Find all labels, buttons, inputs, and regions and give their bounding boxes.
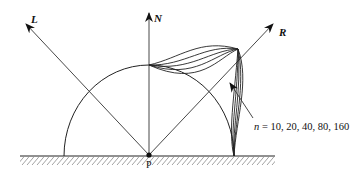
label-P: P [146,159,152,170]
specular-lobes [149,46,243,156]
label-L: L [30,13,38,25]
label-R: R [278,26,286,38]
reflection-diagram: L N R P n = 10, 20, 40, 80, 160 [0,0,357,176]
light-vector-L [26,24,149,155]
annotation-equals: = [259,121,270,132]
annotation-values: 10, 20, 40, 80, 160 [270,121,349,132]
label-N: N [153,12,163,24]
exponent-annotation: n = 10, 20, 40, 80, 160 [254,121,349,132]
point-P-marker [146,152,151,157]
reflect-vector-R [149,24,273,155]
